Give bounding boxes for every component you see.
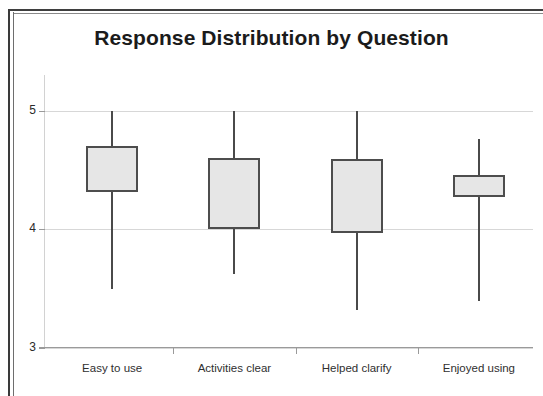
box-rect [453, 175, 505, 198]
box-rect [208, 158, 260, 229]
y-axis-tick-label: 4 [16, 221, 36, 235]
box-rect [331, 159, 383, 233]
y-axis-tick-label: 3 [16, 340, 36, 354]
x-axis-tick-label: Helped clarify [296, 362, 418, 374]
x-axis-tick [418, 347, 419, 354]
x-axis-line [39, 347, 533, 348]
frame-border-top [8, 9, 543, 11]
y-axis-tick [39, 348, 45, 349]
x-axis-tick [296, 347, 297, 354]
frame-border-left-inner [13, 12, 14, 396]
gridline [44, 229, 533, 230]
y-axis-line [44, 75, 45, 348]
whisker-line [478, 139, 480, 300]
gridline [44, 348, 533, 349]
chart-figure: Response Distribution by Question 345 Ea… [0, 0, 543, 396]
box-rect [86, 146, 138, 192]
plot-area [44, 75, 533, 348]
y-axis-tick [39, 111, 45, 112]
x-axis-tick-label: Enjoyed using [418, 362, 540, 374]
y-axis-tick-label: 5 [16, 103, 36, 117]
gridline [44, 111, 533, 112]
frame-border-top-inner [14, 13, 543, 14]
chart-title: Response Distribution by Question [0, 26, 543, 50]
x-axis-tick-label: Activities clear [173, 362, 295, 374]
whisker-line [111, 111, 113, 289]
frame-border-left [8, 9, 10, 396]
y-axis-tick [39, 229, 45, 230]
x-axis-tick [173, 347, 174, 354]
x-axis-tick-label: Easy to use [51, 362, 173, 374]
